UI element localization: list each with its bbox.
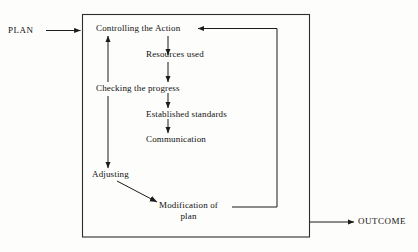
connector-adjusting-to-modification <box>117 181 157 202</box>
terminal-label-outcome: OUTCOME <box>358 216 406 227</box>
node-modification-of-plan-line1: Modification of <box>159 200 218 210</box>
diagram-canvas: PLAN OUTCOME Controlling the Action Reso… <box>0 0 418 252</box>
node-modification-of-plan-line2: plan <box>159 211 218 222</box>
terminal-label-plan: PLAN <box>8 25 34 36</box>
node-established-standards: Established standards <box>146 109 227 120</box>
node-controlling-the-action: Controlling the Action <box>96 23 180 34</box>
node-modification-of-plan: Modification of plan <box>159 200 218 222</box>
node-adjusting: Adjusting <box>92 169 129 180</box>
node-checking-the-progress: Checking the progress <box>96 83 180 94</box>
node-communication: Communication <box>146 134 206 145</box>
node-resources-used: Resources used <box>146 49 204 60</box>
